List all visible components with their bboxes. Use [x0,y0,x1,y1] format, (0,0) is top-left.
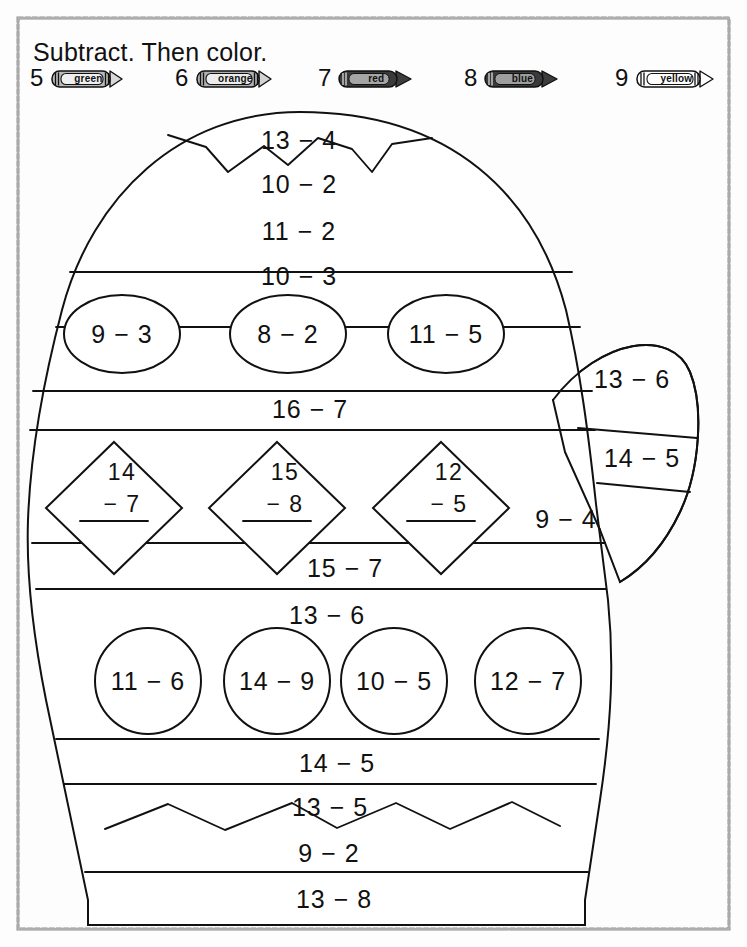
problem-diamond-3-subtrahend: − 5 [430,491,467,517]
color-key-number: 5 [30,66,43,90]
problem-circle-4: 12 − 7 [490,667,566,695]
color-key-item-yellow: 9 yellow [615,66,715,90]
color-key-number: 7 [318,66,331,90]
color-key-item-red: 7 red [318,66,412,90]
problem-band-13-5: 13 − 5 [292,793,368,821]
problem-band-11-2: 11 − 2 [262,217,336,245]
page-title: Subtract. Then color. [33,38,267,67]
color-key-number: 8 [464,66,477,90]
color-key-number: 9 [615,66,628,90]
problem-diamond-2-minuend: 15 [271,459,300,485]
problem-circle-1: 11 − 6 [111,667,185,695]
crayon-icon-blue: blue [482,69,558,88]
color-key-item-blue: 8 blue [464,66,558,90]
problem-band-13-4: 13 − 4 [261,126,337,154]
problem-circle-2: 14 − 9 [239,667,315,695]
crayon-icon-red: red [336,69,412,88]
problem-ellipse-1: 9 − 3 [91,320,152,348]
problem-band-14-5: 14 − 5 [299,749,375,777]
problem-band-9-2: 9 − 2 [298,839,359,867]
color-key-item-orange: 6 orange [175,66,273,90]
color-key-label: blue [482,69,558,88]
crayon-icon-green: green [48,69,124,88]
problem-band-16-7: 16 − 7 [272,395,348,423]
color-key-number: 6 [175,66,188,90]
problem-diamond-1-minuend: 14 [108,459,137,485]
problem-band-15-7: 15 − 7 [307,554,383,582]
problem-band-10-3: 10 − 3 [261,262,337,290]
problem-diamond-2-subtrahend: − 8 [266,491,303,517]
crayon-icon-orange: orange [193,69,273,88]
problem-diamond-1-subtrahend: − 7 [103,491,140,517]
problem-band-13-6: 13 − 6 [289,601,365,629]
problem-circle-3: 10 − 5 [356,667,432,695]
color-key-label: orange [193,69,273,88]
crayon-icon-yellow: yellow [633,69,715,88]
problem-ellipse-2: 8 − 2 [257,320,318,348]
problem-thumb-14-5: 14 − 5 [604,444,680,472]
problem-thumb-13-6: 13 − 6 [594,365,670,393]
problem-diamond-3-minuend: 12 [435,459,464,485]
worksheet-page: Subtract. Then color. 5 green 6 [0,0,747,947]
color-key-item-green: 5 green [30,66,124,90]
problem-band-13-8: 13 − 8 [296,885,372,913]
color-key-label: green [48,69,124,88]
color-key-label: yellow [633,69,715,88]
problem-ellipse-3: 11 − 5 [409,320,483,348]
color-key: 5 green 6 [30,66,720,96]
problem-thumb-9-4: 9 − 4 [535,505,596,533]
mitten-coloring-figure: 13 − 4 10 − 2 11 − 2 10 − 3 9 − 3 8 − 2 … [0,100,747,930]
problem-band-10-2: 10 − 2 [261,170,337,198]
color-key-label: red [336,69,412,88]
